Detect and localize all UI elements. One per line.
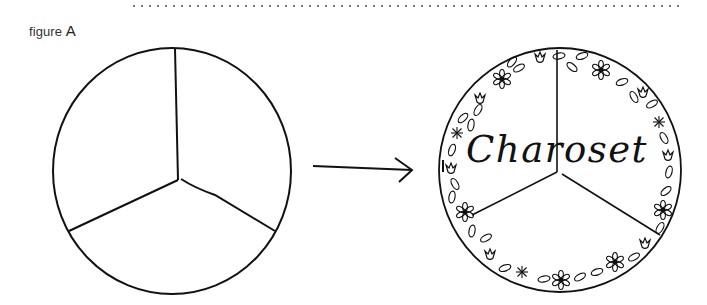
arrow-right-icon — [313, 158, 412, 182]
charoset-label: Charoset — [466, 128, 648, 171]
empty-seder-plate — [53, 48, 291, 294]
